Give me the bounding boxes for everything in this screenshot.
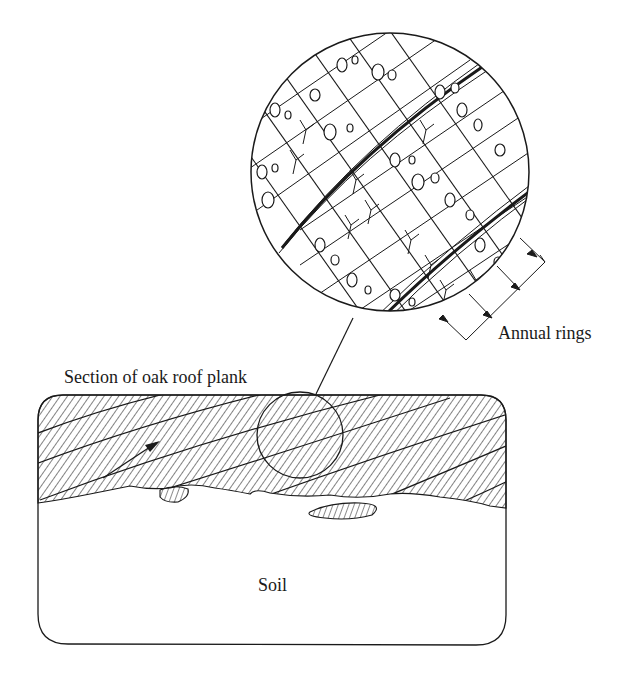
leader-line [316,318,353,394]
arrowhead-icon [439,315,448,322]
wood-fragment [160,487,188,502]
annual-rings-label: Annual rings [498,323,592,343]
wood-fragment [309,503,376,519]
plank-and-soil [20,380,520,645]
fibre-marks [290,120,484,304]
plank-section-label: Section of oak roof plank [64,367,247,387]
vessels [257,56,505,306]
oak-plank [20,380,520,520]
oak-plank-diagram: Annual rings Section of oak roof plank [0,0,639,682]
soil-label: Soil [258,575,287,595]
